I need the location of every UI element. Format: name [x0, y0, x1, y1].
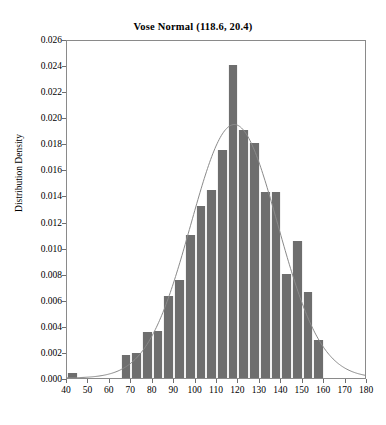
y-axis-tick-label: 0.024 [41, 61, 62, 71]
x-axis-tick [195, 379, 196, 383]
y-axis-tick [62, 196, 66, 197]
x-axis-tick [173, 379, 174, 383]
x-axis-tick-label: 150 [295, 385, 309, 395]
y-axis-tick-label: 0.002 [41, 348, 62, 358]
y-axis-tick-label: 0.020 [41, 113, 62, 123]
y-axis-tick-label: 0.000 [41, 374, 62, 384]
x-axis-tick-label: 50 [83, 385, 93, 395]
x-axis-tick-label: 70 [126, 385, 136, 395]
x-axis-tick [87, 379, 88, 383]
plot-area [66, 40, 366, 379]
y-axis-tick-label: 0.012 [41, 218, 62, 228]
x-axis-tick [366, 379, 367, 383]
x-axis-tick-label: 130 [252, 385, 266, 395]
y-axis-tick-label: 0.016 [41, 165, 62, 175]
x-axis-tick-label: 160 [316, 385, 330, 395]
y-axis-tick-label: 0.022 [41, 87, 62, 97]
x-axis-tick [152, 379, 153, 383]
x-axis-tick-label: 40 [61, 385, 71, 395]
x-axis-tick [323, 379, 324, 383]
y-axis-tick [62, 301, 66, 302]
x-axis-tick-label: 140 [273, 385, 287, 395]
y-axis-tick [62, 275, 66, 276]
x-axis-tick [109, 379, 110, 383]
y-axis-tick [62, 353, 66, 354]
y-axis-tick-label: 0.018 [41, 139, 62, 149]
chart-title: Vose Normal (118.6, 20.4) [0, 21, 386, 32]
y-axis-tick-label: 0.008 [41, 270, 62, 280]
x-axis-tick [259, 379, 260, 383]
y-axis-tick [62, 249, 66, 250]
x-axis-tick-label: 110 [209, 385, 223, 395]
y-axis-tick [62, 144, 66, 145]
x-axis-tick-label: 180 [359, 385, 373, 395]
y-axis-tick [62, 66, 66, 67]
x-axis-tick-label: 170 [337, 385, 351, 395]
x-axis-tick-label: 120 [230, 385, 244, 395]
x-axis-tick [302, 379, 303, 383]
x-axis-tick [237, 379, 238, 383]
x-axis-tick [345, 379, 346, 383]
x-axis-tick [130, 379, 131, 383]
x-axis-tick-label: 60 [104, 385, 114, 395]
y-axis-tick [62, 40, 66, 41]
x-axis-tick-label: 100 [187, 385, 201, 395]
y-axis-tick-label: 0.014 [41, 191, 62, 201]
y-axis-tick [62, 327, 66, 328]
y-axis-tick [62, 92, 66, 93]
x-axis-tick-label: 80 [147, 385, 157, 395]
normal-density-curve [67, 41, 365, 378]
x-axis-tick-label: 90 [168, 385, 178, 395]
y-axis-tick-label: 0.004 [41, 322, 62, 332]
y-axis-tick [62, 223, 66, 224]
y-axis-tick [62, 118, 66, 119]
y-axis-tick [62, 170, 66, 171]
x-axis-tick [66, 379, 67, 383]
x-axis-tick [280, 379, 281, 383]
x-axis-tick [216, 379, 217, 383]
chart-figure: Vose Normal (118.6, 20.4) Distribution D… [0, 0, 386, 425]
y-axis-tick-label: 0.010 [41, 244, 62, 254]
y-axis-tick-label: 0.026 [41, 35, 62, 45]
y-axis-tick-label: 0.006 [41, 296, 62, 306]
y-axis-title: Distribution Density [14, 103, 24, 243]
